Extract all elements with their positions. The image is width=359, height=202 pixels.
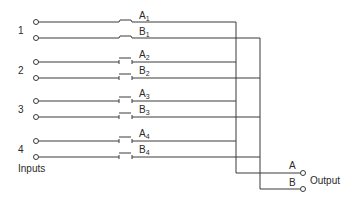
switch-a1-closed[interactable]: [119, 20, 132, 22]
input-number-4: 4: [18, 144, 24, 155]
switch-a4-open[interactable]: [119, 137, 132, 143]
switch-b1-closed[interactable]: [119, 36, 132, 38]
switch-a3-open[interactable]: [119, 97, 132, 103]
switch-label-b3: B3: [139, 104, 150, 116]
switch-b4-open[interactable]: [119, 153, 132, 159]
switch-label-b1: B1: [139, 26, 150, 38]
switch-label-a1: A1: [139, 10, 150, 22]
input-terminal-3b[interactable]: [34, 115, 39, 120]
output-terminal-b[interactable]: [301, 187, 306, 192]
input-number-2: 2: [18, 65, 24, 76]
switch-a2-open[interactable]: [119, 58, 132, 64]
switch-b3-open[interactable]: [119, 113, 132, 119]
input-number-1: 1: [18, 25, 24, 36]
input-3-b-line: B3: [34, 104, 261, 120]
output-label: Output: [310, 175, 340, 186]
input-terminal-2a[interactable]: [34, 60, 39, 65]
multiplexer-diagram: 1 2 3 4 Inputs A1 B1 A2 B2 A3: [0, 0, 359, 202]
inputs-label: Inputs: [18, 163, 45, 174]
input-number-3: 3: [18, 104, 24, 115]
output-terminal-a[interactable]: [301, 171, 306, 176]
input-4-b-line: B4: [34, 144, 261, 160]
switch-label-a3: A3: [139, 88, 150, 100]
input-2-b-line: B2: [34, 65, 261, 81]
input-1-b-line: B1: [34, 26, 261, 41]
input-terminal-1a[interactable]: [34, 20, 39, 25]
input-1-a-line: A1: [34, 10, 237, 25]
input-2-a-line: A2: [34, 49, 237, 65]
bus-a: [236, 22, 301, 173]
switch-label-b2: B2: [139, 65, 150, 77]
input-terminal-4b[interactable]: [34, 155, 39, 160]
switch-label-a2: A2: [139, 49, 150, 61]
output-label-a: A: [289, 160, 296, 171]
output-label-b: B: [289, 177, 296, 188]
input-terminal-2b[interactable]: [34, 76, 39, 81]
input-terminal-1b[interactable]: [34, 36, 39, 41]
input-3-a-line: A3: [34, 88, 237, 104]
input-terminal-3a[interactable]: [34, 99, 39, 104]
input-4-a-line: A4: [34, 128, 237, 144]
switch-label-a4: A4: [139, 128, 150, 140]
switch-b2-open[interactable]: [119, 74, 132, 80]
switch-label-b4: B4: [139, 144, 150, 156]
input-terminal-4a[interactable]: [34, 139, 39, 144]
